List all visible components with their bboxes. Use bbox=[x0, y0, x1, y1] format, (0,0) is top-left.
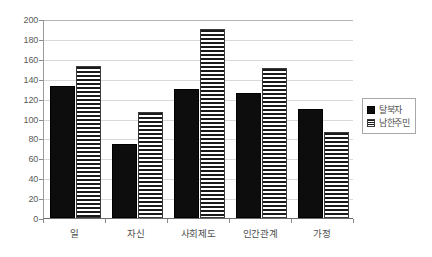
bar bbox=[262, 68, 287, 218]
bar bbox=[324, 132, 349, 218]
x-tick-label: 일 bbox=[43, 228, 105, 239]
bar bbox=[50, 86, 75, 218]
x-tick-mark bbox=[43, 219, 44, 223]
bar bbox=[76, 66, 101, 218]
bar bbox=[112, 144, 137, 218]
bar bbox=[236, 93, 261, 218]
x-tick-label: 인간관계 bbox=[229, 228, 291, 239]
bar-group bbox=[236, 20, 287, 218]
y-tick-label: 180 bbox=[0, 36, 38, 45]
chart-legend: 탈북자남한주민 bbox=[362, 98, 416, 134]
y-tick-label: 60 bbox=[0, 155, 38, 164]
x-tick-label: 자신 bbox=[105, 228, 167, 239]
x-tick-mark bbox=[229, 219, 230, 223]
y-tick-label: 120 bbox=[0, 96, 38, 105]
x-tick-mark bbox=[291, 219, 292, 223]
y-tick-label: 160 bbox=[0, 56, 38, 65]
bar bbox=[138, 112, 163, 218]
bar bbox=[174, 89, 199, 218]
y-tick-label: 80 bbox=[0, 135, 38, 144]
bar bbox=[298, 109, 323, 218]
legend-swatch-icon bbox=[367, 106, 375, 114]
y-tick-label: 20 bbox=[0, 195, 38, 204]
x-tick-mark bbox=[353, 219, 354, 223]
x-tick-label: 가정 bbox=[291, 228, 353, 239]
x-tick-mark bbox=[167, 219, 168, 223]
x-tick-mark bbox=[105, 219, 106, 223]
bar-group bbox=[112, 20, 163, 218]
x-tick-label: 사회제도 bbox=[167, 228, 229, 239]
y-tick-label: 100 bbox=[0, 116, 38, 125]
y-tick-label: 200 bbox=[0, 16, 38, 25]
bar-group bbox=[298, 20, 349, 218]
bar-group bbox=[50, 20, 101, 218]
bar-chart: 020406080100120140160180200 일자신사회제도인간관계가… bbox=[0, 0, 432, 257]
legend-item: 남한주민 bbox=[367, 116, 410, 129]
y-tick-label: 140 bbox=[0, 76, 38, 85]
legend-item: 탈북자 bbox=[367, 103, 410, 116]
y-tick-label: 40 bbox=[0, 175, 38, 184]
legend-label: 남한주민 bbox=[379, 118, 410, 128]
y-tick-label: 0 bbox=[0, 215, 38, 224]
bar bbox=[200, 29, 225, 218]
legend-label: 탈북자 bbox=[379, 105, 402, 115]
legend-swatch-icon bbox=[367, 119, 375, 127]
bar-group bbox=[174, 20, 225, 218]
plot-area bbox=[43, 20, 353, 219]
